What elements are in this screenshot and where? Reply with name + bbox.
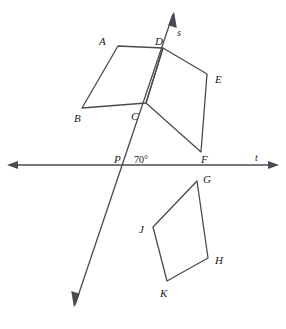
line-t-arrow-right bbox=[268, 161, 279, 169]
quadrilateral-DEFC bbox=[146, 48, 207, 152]
vertex-label-H: H bbox=[215, 255, 223, 266]
vertex-label-J: J bbox=[139, 224, 144, 235]
vertex-label-D: D bbox=[155, 36, 163, 47]
quadrilateral-GHKJ bbox=[153, 181, 208, 281]
line-t-arrow-left bbox=[7, 161, 18, 169]
vertex-label-F: F bbox=[201, 154, 208, 165]
vertex-label-B: B bbox=[74, 113, 81, 124]
line-s-segment bbox=[75, 14, 173, 305]
vertex-label-G: G bbox=[203, 174, 211, 185]
vertex-label-K: K bbox=[160, 288, 167, 299]
vertex-label-E: E bbox=[215, 74, 222, 85]
geometry-figure: A B C D E F G H J K P s t 70° bbox=[0, 0, 286, 329]
vertex-label-C: C bbox=[131, 111, 138, 122]
quadrilateral-ABCD bbox=[82, 46, 163, 108]
line-label-t: t bbox=[255, 153, 258, 163]
vertex-label-A: A bbox=[99, 36, 106, 47]
angle-measure-label: 70° bbox=[134, 155, 148, 165]
line-label-s: s bbox=[177, 28, 181, 38]
vertex-label-P: P bbox=[114, 154, 121, 165]
